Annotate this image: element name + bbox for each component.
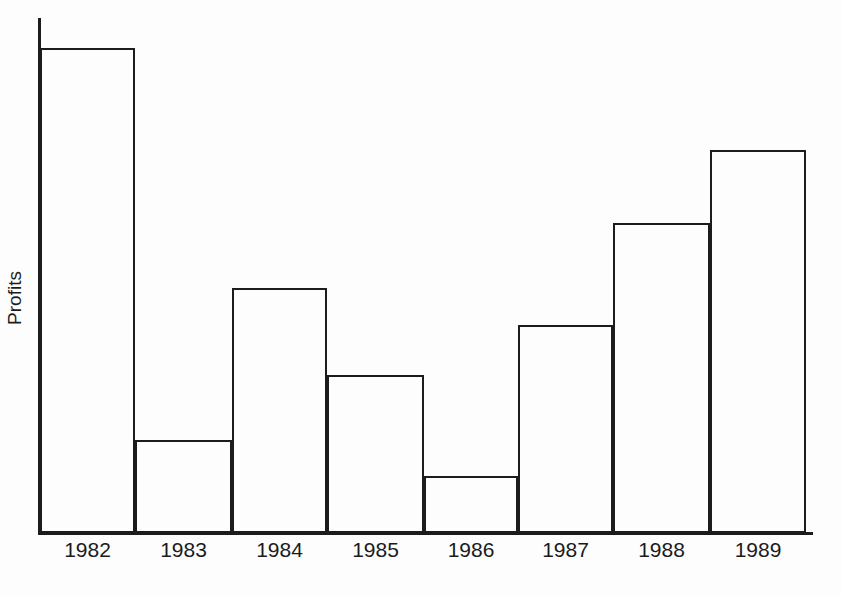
- bar-1985: [327, 375, 424, 533]
- y-axis-label-text: Profits: [4, 271, 26, 325]
- x-tick-label-1985: 1985: [327, 538, 424, 562]
- x-tick-label-1982: 1982: [40, 538, 135, 562]
- x-tick-label-1989: 1989: [710, 538, 806, 562]
- bar-1983: [135, 440, 232, 533]
- x-tick-label-1986: 1986: [424, 538, 518, 562]
- bar-chart-figure: Profits growing up Profits 1982198319841…: [0, 0, 841, 595]
- bar-1984: [232, 288, 327, 533]
- plot-area: [38, 18, 813, 535]
- bar-1982: [40, 48, 135, 533]
- x-axis-tick-labels: 19821983198419851986198719881989: [38, 538, 813, 578]
- x-tick-label-1984: 1984: [232, 538, 327, 562]
- bars-layer: [38, 18, 813, 535]
- bar-1986: [424, 476, 518, 533]
- y-axis-label: Profits: [4, 0, 26, 595]
- bar-1987: [518, 325, 613, 533]
- x-tick-label-1987: 1987: [518, 538, 613, 562]
- x-tick-label-1983: 1983: [135, 538, 232, 562]
- bar-1988: [613, 223, 710, 533]
- bar-1989: [710, 150, 806, 533]
- x-tick-label-1988: 1988: [613, 538, 710, 562]
